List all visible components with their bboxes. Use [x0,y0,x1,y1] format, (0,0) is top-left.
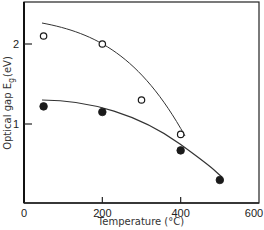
open-circle-point [99,41,105,47]
open-circle-point [177,131,183,137]
filled-circle-point [99,108,107,116]
axis-tick-labels: 020040060012 [13,38,263,219]
filled-series-fit-curve [42,100,222,177]
filled-circle-point [40,103,48,111]
open-circle-point [138,97,144,103]
x-axis-title: Temperature (°C) [97,216,184,227]
x-tick-label: 600 [245,207,263,219]
x-tick-label: 0 [21,207,27,219]
axis-ticks [24,44,181,203]
fit-curves [42,23,222,177]
open-circle-point [40,33,46,39]
y-tick-label: 2 [13,38,19,50]
optical-gap-chart: 020040060012 Temperature (°C) Optical ga… [0,0,264,230]
filled-circle-point [216,176,224,184]
data-points [40,33,224,184]
y-axis-title: Optical gap Eg(eV) [2,56,16,150]
filled-circle-point [177,147,185,155]
open-series-fit-curve [42,23,185,136]
y-tick-label: 1 [13,118,19,130]
